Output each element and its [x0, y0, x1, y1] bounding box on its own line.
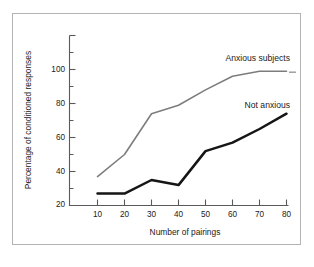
- annotation-anxious-subjects: Anxious subjects: [226, 53, 291, 63]
- x-tick-label-30: 30: [147, 210, 157, 219]
- line-chart: 20 40 60 80 100 10 20: [13, 14, 300, 244]
- y-axis-tick-labels: 20 40 60 80 100: [51, 65, 65, 209]
- y-tick-label-60: 60: [56, 133, 66, 142]
- x-axis-major-ticks: [98, 200, 287, 206]
- print-speck: [289, 72, 296, 73]
- x-tick-label-40: 40: [174, 210, 184, 219]
- y-axis-minor-ticks: [70, 53, 74, 189]
- y-tick-label-80: 80: [56, 99, 66, 108]
- x-axis-title: Number of pairings: [150, 227, 221, 237]
- series-line-anxious-subjects: [98, 71, 287, 176]
- x-axis-tick-labels: 10 20 30 40 50 60 70 80: [93, 210, 292, 219]
- figure-frame: 20 40 60 80 100 10 20: [12, 13, 301, 245]
- annotation-not-anxious: Not anxious: [245, 100, 290, 110]
- figure-container: 20 40 60 80 100 10 20: [0, 0, 314, 267]
- x-tick-label-10: 10: [93, 210, 103, 219]
- y-tick-label-40: 40: [56, 167, 66, 176]
- y-tick-label-20: 20: [56, 200, 66, 209]
- x-tick-label-60: 60: [228, 210, 238, 219]
- y-axis-title: Percentage of conditioned responses: [23, 51, 33, 189]
- x-tick-label-80: 80: [282, 210, 292, 219]
- y-tick-label-100: 100: [51, 65, 65, 74]
- x-tick-label-20: 20: [120, 210, 130, 219]
- x-tick-label-50: 50: [201, 210, 211, 219]
- y-axis-major-ticks: [70, 36, 76, 172]
- x-tick-label-70: 70: [255, 210, 265, 219]
